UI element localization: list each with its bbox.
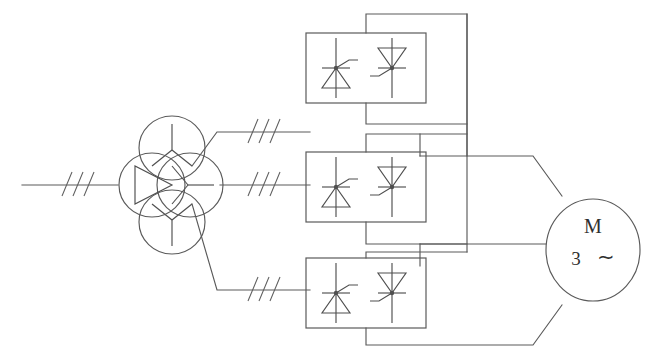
phase-slash-1 — [248, 172, 258, 196]
thyristor-reverse — [370, 38, 406, 98]
thyristor-forward — [322, 157, 358, 217]
motor-ac-symbol: ∼ — [597, 245, 615, 269]
motor-phase-number: 3 — [571, 248, 581, 269]
wire-bottom-converter-upper — [366, 252, 467, 258]
supply-line-group — [22, 172, 118, 196]
circuit-schematic: M 3 ∼ — [0, 0, 649, 362]
transformer-group — [119, 116, 223, 254]
wire-middle-converter-lower — [366, 222, 467, 244]
phase-slash-1 — [248, 119, 258, 143]
phase-mark-middle-branch — [248, 172, 280, 196]
junction-dot — [390, 66, 394, 70]
phase-slash-3 — [84, 172, 94, 196]
wire-motor-phase-3 — [366, 305, 562, 345]
gate-lead — [370, 187, 392, 195]
wire-middle-converter-upper — [366, 134, 467, 152]
gate-lead — [370, 68, 392, 76]
schematic-canvas: M 3 ∼ — [0, 0, 649, 362]
motor-symbol-letter: M — [584, 215, 602, 237]
three-phase-motor[interactable]: M 3 ∼ — [546, 199, 640, 301]
phase-slash-3 — [270, 277, 280, 301]
phase-slash-2 — [259, 119, 269, 143]
phase-slash-3 — [270, 119, 280, 143]
wye-winding-bottom — [139, 190, 205, 254]
converter-block-middle[interactable] — [306, 152, 426, 222]
phase-slash-1 — [248, 277, 258, 301]
junction-dot — [390, 291, 394, 295]
wye-leg-right — [172, 204, 192, 220]
thyristor-reverse — [370, 157, 406, 217]
thyristor-forward — [322, 263, 358, 323]
delta-triangle — [135, 166, 172, 204]
phase-mark-top-branch — [248, 119, 280, 143]
wye-winding-top — [139, 116, 205, 180]
wire-top-converter-lower — [366, 103, 467, 124]
phase-slash-1 — [62, 172, 72, 196]
converter-block-top[interactable] — [306, 33, 426, 103]
gate-lead — [370, 293, 392, 301]
phase-slash-2 — [259, 277, 269, 301]
wire-motor-phase-1 — [420, 156, 562, 196]
gate-lead — [336, 285, 358, 293]
wye-winding-middle — [157, 153, 223, 217]
phase-slash-2 — [73, 172, 83, 196]
phase-mark-supply — [62, 172, 94, 196]
thyristor-reverse — [370, 263, 406, 323]
wire-top-converter-upper — [366, 14, 467, 156]
thyristor-forward — [322, 38, 358, 98]
phase-slash-3 — [270, 172, 280, 196]
winding-circle-primary — [119, 153, 185, 217]
junction-dot — [334, 291, 338, 295]
junction-dot — [390, 185, 394, 189]
converter-block-bottom[interactable] — [306, 258, 426, 328]
feeder-bottom — [192, 204, 310, 290]
junction-dot — [334, 185, 338, 189]
phase-mark-bottom-branch — [248, 277, 280, 301]
wye-leg-right — [172, 150, 192, 166]
junction-dot — [334, 66, 338, 70]
phase-slash-2 — [259, 172, 269, 196]
gate-lead — [336, 179, 358, 187]
gate-lead — [336, 60, 358, 68]
delta-winding — [119, 153, 185, 217]
